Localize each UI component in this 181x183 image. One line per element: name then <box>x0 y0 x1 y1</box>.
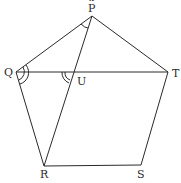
pentagon-diagram: x P Q T U R S <box>0 0 181 183</box>
point-label-U: U <box>77 76 86 87</box>
segment-QR <box>16 72 44 166</box>
point-label-S: S <box>137 169 145 180</box>
segment-RS <box>44 165 141 166</box>
segment-PQ <box>16 16 92 72</box>
segment-PT <box>92 16 168 72</box>
point-label-R: R <box>40 169 48 180</box>
point-label-T: T <box>172 68 179 79</box>
segment-ST <box>141 72 168 165</box>
diagram-lines <box>0 0 181 183</box>
segment-PR <box>44 16 92 166</box>
angle-mark-P <box>81 24 88 28</box>
angle-mark-U-inner <box>65 72 70 80</box>
point-label-Q: Q <box>4 67 13 78</box>
point-label-P: P <box>88 3 95 14</box>
